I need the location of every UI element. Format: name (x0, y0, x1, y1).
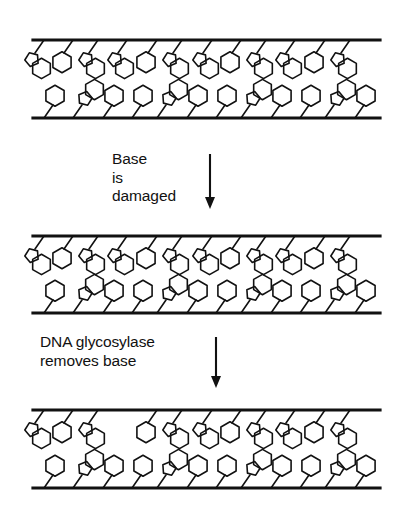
bottom-base-purine (73, 274, 103, 313)
bottom-base-purine (73, 449, 103, 488)
bottom-base-purine (241, 449, 271, 488)
top-base-purine (25, 410, 51, 449)
bottom-base-pyrimidine (300, 455, 320, 488)
top-base-pyrimidine (137, 410, 157, 443)
bottom-base-pyrimidine (103, 280, 123, 313)
top-base-purine (79, 40, 105, 79)
top-base-purine (79, 410, 105, 449)
top-base-purine (247, 40, 273, 79)
top-base-purine (108, 40, 134, 79)
bottom-base-pyrimidine (216, 280, 236, 313)
top-base-pyrimidine (305, 236, 325, 269)
bottom-base-pyrimidine (187, 455, 207, 488)
bottom-base-pyrimidine (300, 85, 320, 118)
top-base-purine (331, 40, 357, 79)
bottom-base-pyrimidine (271, 280, 291, 313)
figure-canvas: BaseisdamagedDNA glycosylaseremoves base (0, 0, 408, 510)
top-base-pyrimidine (221, 40, 241, 73)
bottom-base-purine (325, 274, 355, 313)
step-arrow (0, 335, 408, 389)
top-base-purine (25, 236, 51, 275)
dna-duplex-panel (0, 402, 408, 502)
bottom-base-pyrimidine (132, 85, 152, 118)
bottom-base-purine (73, 79, 103, 118)
top-base-purine (247, 410, 273, 449)
bottom-strand-bases (44, 274, 375, 313)
bottom-base-purine (157, 79, 187, 118)
bottom-base-pyrimidine (132, 455, 152, 488)
top-base-purine (193, 410, 219, 449)
top-base-purine (193, 40, 219, 79)
top-base-purine (276, 410, 302, 449)
top-base-purine (163, 236, 189, 275)
bottom-base-pyrimidine (103, 455, 123, 488)
top-base-pyrimidine (137, 236, 157, 269)
top-base-pyrimidine (221, 410, 241, 443)
bottom-base-pyrimidine (271, 85, 291, 118)
top-base-purine (163, 410, 189, 449)
bottom-base-pyrimidine (216, 455, 236, 488)
top-strand-bases (25, 410, 357, 449)
top-base-purine (79, 236, 105, 275)
bottom-base-purine (157, 274, 187, 313)
top-base-pyrimidine (221, 236, 241, 269)
top-base-purine (247, 236, 273, 275)
bottom-base-purine (325, 79, 355, 118)
bottom-base-pyrimidine (187, 85, 207, 118)
top-base-purine (108, 236, 134, 275)
top-base-purine (193, 236, 219, 275)
bottom-base-pyrimidine (355, 85, 375, 118)
top-base-pyrimidine (53, 236, 73, 269)
bottom-strand-bases (44, 79, 375, 118)
bottom-base-pyrimidine (103, 85, 123, 118)
bottom-base-purine (241, 274, 271, 313)
top-base-pyrimidine (305, 410, 325, 443)
top-base-pyrimidine (53, 410, 73, 443)
top-base-pyrimidine (137, 40, 157, 73)
top-base-pyrimidine (53, 40, 73, 73)
bottom-base-purine (241, 79, 271, 118)
bottom-strand-bases (44, 449, 375, 488)
top-base-purine (25, 40, 51, 79)
bottom-base-pyrimidine (132, 280, 152, 313)
dna-duplex-panel (0, 32, 408, 132)
bottom-base-pyrimidine (44, 280, 64, 313)
step-arrow (0, 152, 408, 210)
bottom-base-purine (157, 449, 187, 488)
bottom-base-pyrimidine (44, 85, 64, 118)
top-base-purine (276, 236, 302, 275)
top-base-purine (331, 410, 357, 449)
top-base-pyrimidine (305, 40, 325, 73)
bottom-base-purine (325, 449, 355, 488)
bottom-base-pyrimidine (355, 280, 375, 313)
top-base-purine (331, 236, 357, 275)
bottom-base-pyrimidine (300, 280, 320, 313)
bottom-base-pyrimidine (216, 85, 236, 118)
top-strand-bases (25, 236, 357, 275)
top-base-purine (163, 40, 189, 79)
bottom-base-pyrimidine (355, 455, 375, 488)
top-base-purine (276, 40, 302, 79)
top-strand-bases (25, 40, 357, 79)
bottom-base-pyrimidine (271, 455, 291, 488)
bottom-base-pyrimidine (187, 280, 207, 313)
dna-duplex-panel (0, 228, 408, 327)
bottom-base-pyrimidine (44, 455, 64, 488)
